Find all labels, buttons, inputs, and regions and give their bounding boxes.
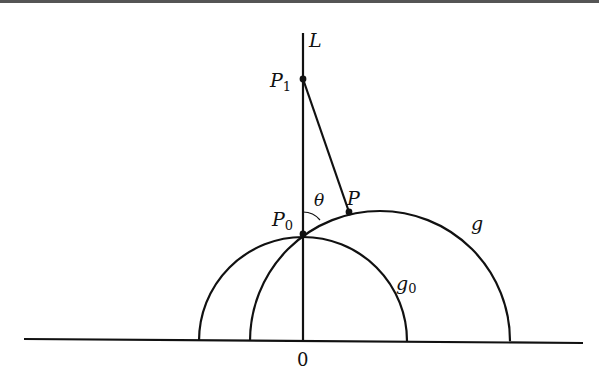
angle-arc-theta: [303, 212, 320, 220]
label-P: P: [346, 187, 361, 209]
point-P: [346, 209, 353, 216]
label-P0: P0: [271, 208, 293, 233]
label-g0: g0: [396, 272, 416, 296]
diagram-canvas: L P1 P0 P θ g g0 0: [0, 0, 599, 384]
point-P1: [300, 76, 307, 83]
label-theta: θ: [314, 190, 324, 210]
point-P0: [300, 231, 307, 238]
label-origin: 0: [297, 349, 308, 370]
label-g: g: [471, 212, 483, 234]
label-L: L: [308, 29, 322, 51]
label-P1: P1: [269, 69, 291, 94]
segment-P1-P: [303, 79, 349, 212]
